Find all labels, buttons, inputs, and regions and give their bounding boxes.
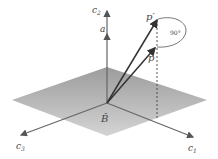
label-p-prime: p′ — [146, 11, 155, 22]
geometric-algebra-diagram: c2 a p′ p 90° B̂ c3 c1 — [0, 0, 218, 159]
label-p: p — [148, 52, 155, 63]
label-angle: 90° — [170, 29, 181, 36]
label-c2: c2 — [92, 5, 101, 16]
label-B: B̂ — [100, 113, 108, 124]
label-c3: c3 — [16, 141, 25, 152]
label-c1: c1 — [188, 143, 197, 154]
plane-B — [12, 67, 207, 136]
label-a: a — [100, 24, 105, 34]
